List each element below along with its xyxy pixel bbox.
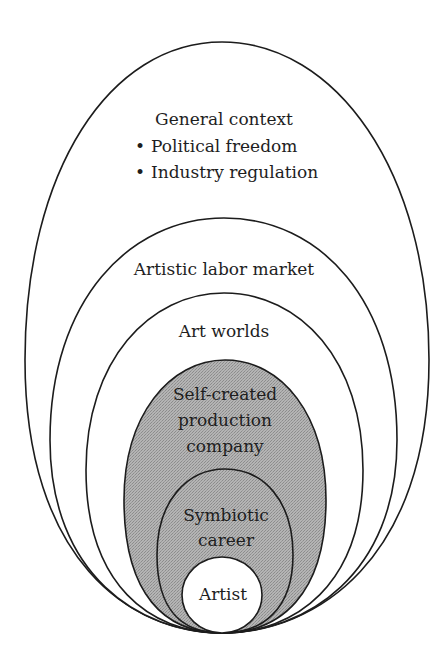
bullet-icon: • <box>135 162 145 182</box>
bullet-icon: • <box>135 136 145 156</box>
nested-ellipse-diagram: General context • Political freedom • In… <box>0 0 448 663</box>
bullet-industry-regulation: Industry regulation <box>151 162 318 182</box>
art-worlds-label: Art worlds <box>178 321 270 341</box>
symbiotic-career-label-line-1: Symbiotic <box>183 505 269 525</box>
general-context-title: General context <box>155 109 293 129</box>
self-created-label-line-1: Self-created <box>173 384 277 404</box>
self-created-label-line-2: production <box>178 410 272 430</box>
bullet-political-freedom: Political freedom <box>151 136 297 156</box>
artist-label: Artist <box>198 584 247 604</box>
artistic-labor-market-label: Artistic labor market <box>133 259 315 279</box>
symbiotic-career-label-line-2: career <box>198 530 255 550</box>
layer-artist: Artist <box>182 557 262 633</box>
self-created-label-line-3: company <box>186 436 264 456</box>
